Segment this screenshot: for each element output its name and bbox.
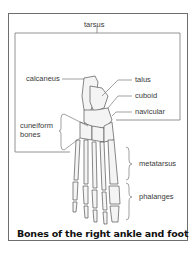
label-calcaneus: calcaneus bbox=[26, 75, 60, 83]
label-tarsus: tarsus bbox=[84, 21, 104, 29]
label-metatarsus: metatarsus bbox=[139, 160, 176, 168]
foot-bones bbox=[73, 76, 120, 224]
label-talus: talus bbox=[135, 76, 151, 84]
label-navicular: navicular bbox=[135, 108, 165, 116]
label-cuboid: cuboid bbox=[135, 92, 157, 100]
figure-title: Bones of the right ankle and foot bbox=[17, 228, 188, 239]
metatarsus-bracket bbox=[126, 147, 132, 180]
label-cuneiform-line1: cuneiform bbox=[20, 122, 53, 130]
label-phalanges: phalanges bbox=[139, 193, 174, 201]
label-cuneiform-line2: bones bbox=[20, 131, 40, 139]
phalanges-bracket bbox=[126, 183, 132, 220]
